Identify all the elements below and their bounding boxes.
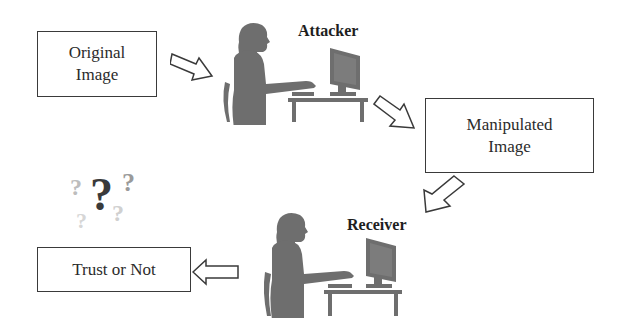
manipulated-image-box: Manipulated Image: [425, 98, 594, 173]
arrow-down-left-icon: [420, 174, 468, 216]
question-mark-light-3: ?: [76, 208, 87, 234]
arrow-left-icon: [192, 258, 240, 286]
question-mark-light-4: ?: [112, 200, 124, 227]
question-mark-light-2: ?: [122, 168, 135, 198]
arrow-right-icon: [170, 44, 216, 86]
original-image-label-line1: Original: [69, 42, 126, 64]
question-marks-icon: ? ? ? ? ?: [68, 170, 148, 246]
attacker-label: Attacker: [298, 22, 358, 40]
question-mark-dark: ?: [90, 168, 113, 221]
original-image-label-line2: Image: [76, 64, 118, 86]
original-image-box: Original Image: [37, 31, 157, 97]
trust-or-not-label: Trust or Not: [72, 259, 155, 281]
trust-or-not-box: Trust or Not: [37, 247, 191, 292]
manipulated-image-label-line1: Manipulated: [467, 114, 553, 136]
receiver-figure-icon: [262, 212, 407, 318]
question-mark-light-1: ?: [70, 174, 82, 201]
arrow-down-right-icon: [372, 94, 418, 132]
manipulated-image-label-line2: Image: [488, 136, 530, 158]
